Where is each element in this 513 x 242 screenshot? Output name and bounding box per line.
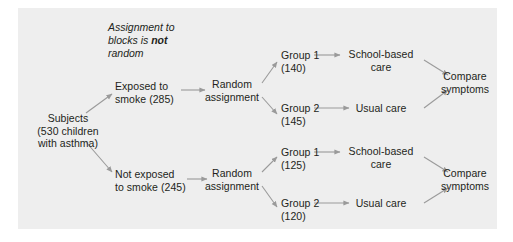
annotation-line-1: Assignment to [108,21,175,33]
node-group2-top: Group 2 (145) [281,102,329,127]
diagram-canvas: Assignment to blocks is not random Subje… [0,0,513,242]
annotation-line-2-emphasis: not [151,34,167,46]
annotation-line-3: random [108,47,144,59]
node-subjects: Subjects (530 children with asthma) [14,112,122,150]
node-random-assignment-bottom: Random assignment [199,167,265,192]
node-group2-bottom: Group 2 (120) [281,197,329,222]
node-treatment-usual-top: Usual care [339,102,423,115]
node-treatment-school-bottom: School-based care [339,145,423,170]
node-treatment-school-top: School-based care [339,48,423,73]
node-group1-bottom: Group 1 (125) [281,146,329,171]
node-random-assignment-top: Random assignment [199,78,265,103]
node-block-not-exposed: Not exposed to smoke (245) [115,168,205,193]
node-compare-bottom: Compare symptoms [434,167,496,192]
arrow-subjects-to-exposed [86,94,112,113]
node-block-exposed: Exposed to smoke (285) [115,80,195,105]
annotation-not-random: Assignment to blocks is not random [108,21,175,60]
node-treatment-usual-bottom: Usual care [339,197,423,210]
node-compare-top: Compare symptoms [434,70,496,95]
node-group1-top: Group 1 (140) [281,49,329,74]
annotation-line-2-prefix: blocks is [108,34,151,46]
